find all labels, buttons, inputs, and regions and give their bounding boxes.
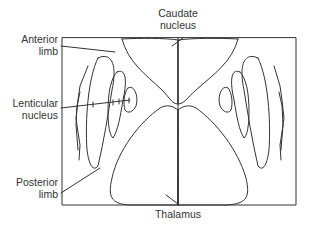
label-lenticular-nucleus: Lenticular nucleus <box>0 97 58 121</box>
label-lenticular-line2: nucleus <box>0 109 58 121</box>
label-caudate-line1: Caudate <box>148 7 208 19</box>
section-frame <box>62 38 296 205</box>
leader-thalamus <box>166 195 178 204</box>
thalamus-left <box>110 106 178 205</box>
label-posterior-limb: Posterior limb <box>0 176 58 200</box>
claustrum-right <box>274 66 284 160</box>
thalamus-right <box>178 106 248 205</box>
caudate-nucleus-right <box>178 38 238 104</box>
putamen-left <box>86 56 114 168</box>
leader-lenticular <box>61 100 130 108</box>
label-thalamus: Thalamus <box>148 208 208 220</box>
caudate-nucleus-left <box>122 38 178 104</box>
claustrum-left <box>76 66 88 160</box>
label-caudate-line2: nucleus <box>148 19 208 31</box>
label-caudate-nucleus: Caudate nucleus <box>148 7 208 31</box>
label-anterior-line1: Anterior <box>0 33 58 45</box>
globus-pallidus-outer-left <box>108 71 125 138</box>
leader-anterior-limb <box>61 46 115 52</box>
label-anterior-line2: limb <box>0 45 58 57</box>
label-thalamus-line1: Thalamus <box>148 208 208 220</box>
label-posterior-line1: Posterior <box>0 176 58 188</box>
putamen-right <box>242 56 270 168</box>
label-posterior-line2: limb <box>0 188 58 200</box>
leader-posterior-limb <box>61 168 100 193</box>
label-lenticular-line1: Lenticular <box>0 97 58 109</box>
globus-pallidus-inner-right <box>219 87 232 112</box>
globus-pallidus-inner-left <box>124 87 137 112</box>
label-anterior-limb: Anterior limb <box>0 33 58 57</box>
